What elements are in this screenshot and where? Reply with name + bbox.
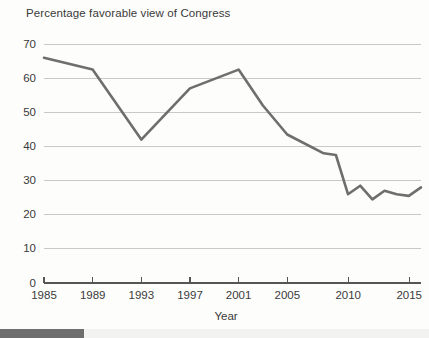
scrollbar-thumb[interactable] <box>0 329 84 338</box>
xtick-label-2001: 2001 <box>226 289 252 301</box>
gridlines <box>44 44 421 248</box>
ytick-label-70: 70 <box>23 38 36 50</box>
ytick-label-50: 50 <box>23 106 36 118</box>
x-axis-tickmarks <box>44 277 409 283</box>
xtick-label-1985: 1985 <box>31 289 57 301</box>
ytick-label-40: 40 <box>23 140 36 152</box>
x-axis-title: Year <box>214 310 237 322</box>
ytick-label-30: 30 <box>23 174 36 186</box>
xtick-label-2015: 2015 <box>396 289 422 301</box>
ytick-label-10: 10 <box>23 242 36 254</box>
xtick-label-2010: 2010 <box>335 289 361 301</box>
ytick-label-20: 20 <box>23 208 36 220</box>
xtick-label-1989: 1989 <box>80 289 106 301</box>
line-chart-plot: 70 60 50 40 30 20 10 0 1985 1989 <box>0 0 429 338</box>
x-axis-labels: 1985 1989 1993 1997 2001 2005 2010 2015 <box>31 289 422 301</box>
y-axis-ticks: 70 60 50 40 30 20 10 0 <box>23 38 36 289</box>
series-line-congress-favorability <box>44 58 421 200</box>
ytick-label-60: 60 <box>23 72 36 84</box>
xtick-label-1993: 1993 <box>129 289 155 301</box>
xtick-label-2005: 2005 <box>275 289 301 301</box>
ytick-label-0: 0 <box>30 277 36 289</box>
xtick-label-1997: 1997 <box>177 289 203 301</box>
chart-page: Percentage favorable view of Congress 70… <box>0 0 429 338</box>
